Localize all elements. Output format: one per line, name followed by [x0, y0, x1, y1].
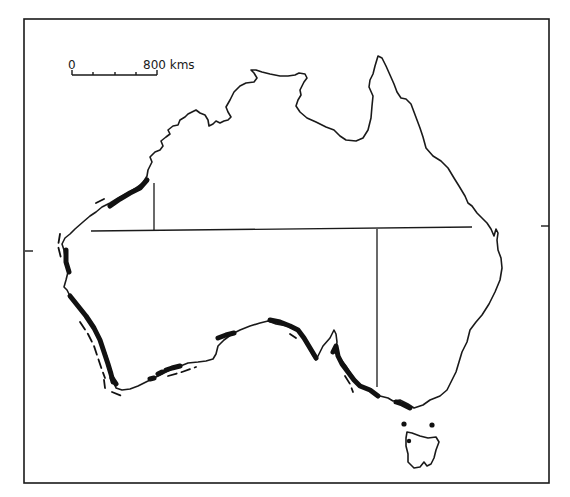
tasmania-nw-dot: [407, 439, 411, 443]
tasmania-coastline: [406, 432, 439, 468]
highlighted-coast-southwest-cape: [112, 378, 116, 384]
highlighted-coast-eyre: [270, 320, 316, 358]
scale-start-label: 0: [68, 58, 76, 72]
border-wa-sa-horizontal: [91, 227, 472, 231]
highlighted-coast-shark-bay: [66, 250, 69, 272]
australia-map: 0 800 kms: [0, 0, 570, 497]
king-island: [401, 421, 406, 426]
highlighted-coast-pilbara: [110, 180, 147, 206]
offshore-shark-bay: [58, 234, 61, 258]
flinders-island: [429, 422, 434, 427]
highlighted-coast-bight-east: [218, 333, 234, 338]
highlighted-coast-sa-gulfs: [333, 346, 378, 396]
scale-bar: 0 800 kms: [68, 58, 195, 75]
highlighted-coast-victoria: [396, 402, 410, 408]
offshore-pilbara: [96, 198, 106, 203]
map-frame: [24, 19, 549, 483]
scale-end-label: 800 kms: [143, 58, 195, 72]
offshore-eyre: [290, 334, 296, 338]
mainland-coastline: [62, 56, 502, 408]
